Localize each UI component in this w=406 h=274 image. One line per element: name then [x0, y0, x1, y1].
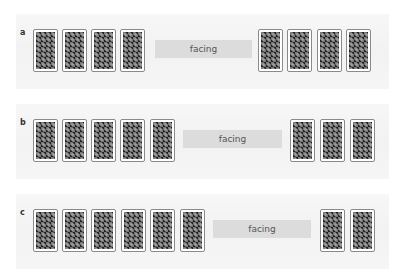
- card-pattern-icon: [65, 122, 84, 159]
- card-pattern-icon: [353, 122, 372, 159]
- card-back: [258, 29, 283, 72]
- card-pattern-icon: [349, 32, 368, 69]
- card-back: [91, 119, 116, 162]
- card-back: [350, 119, 375, 162]
- panel-c: c facing: [16, 194, 389, 269]
- card-back: [150, 209, 175, 252]
- card-pattern-icon: [36, 122, 55, 159]
- card-pattern-icon: [65, 212, 84, 249]
- card-back: [150, 119, 175, 162]
- facing-bar: facing: [183, 130, 282, 148]
- card-back: [62, 29, 87, 72]
- card-back: [290, 119, 315, 162]
- panel-a: a facing: [16, 14, 389, 89]
- card-pattern-icon: [323, 212, 342, 249]
- card-pattern-icon: [65, 32, 84, 69]
- panel-b: b facing: [16, 104, 389, 179]
- card-pattern-icon: [290, 32, 309, 69]
- card-pattern-icon: [123, 122, 142, 159]
- facing-bar: facing: [213, 220, 311, 238]
- card-pattern-icon: [36, 32, 55, 69]
- card-pattern-icon: [124, 212, 143, 249]
- card-back: [91, 29, 116, 72]
- card-pattern-icon: [36, 212, 55, 249]
- card-back: [320, 209, 345, 252]
- card-pattern-icon: [323, 122, 342, 159]
- card-back: [62, 209, 87, 252]
- card-back: [287, 29, 312, 72]
- card-back: [317, 29, 342, 72]
- card-back: [33, 119, 58, 162]
- card-back: [121, 209, 146, 252]
- card-pattern-icon: [261, 32, 280, 69]
- card-back: [346, 29, 371, 72]
- card-pattern-icon: [94, 32, 113, 69]
- card-back: [320, 119, 345, 162]
- card-pattern-icon: [320, 32, 339, 69]
- panel-label: c: [20, 208, 25, 217]
- card-back: [33, 29, 58, 72]
- panel-label: b: [20, 118, 26, 127]
- card-pattern-icon: [123, 32, 142, 69]
- card-back: [33, 209, 58, 252]
- facing-bar: facing: [155, 40, 252, 58]
- card-pattern-icon: [94, 212, 113, 249]
- card-back: [91, 209, 116, 252]
- card-back: [62, 119, 87, 162]
- card-back: [120, 29, 145, 72]
- card-pattern-icon: [153, 122, 172, 159]
- card-back: [180, 209, 205, 252]
- card-pattern-icon: [183, 212, 202, 249]
- card-back: [120, 119, 145, 162]
- card-pattern-icon: [153, 212, 172, 249]
- card-pattern-icon: [293, 122, 312, 159]
- card-back: [350, 209, 375, 252]
- card-pattern-icon: [353, 212, 372, 249]
- card-pattern-icon: [94, 122, 113, 159]
- panel-label: a: [20, 28, 25, 37]
